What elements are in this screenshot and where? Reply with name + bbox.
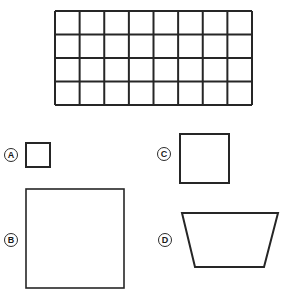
- shape-label-c-text: C: [161, 150, 168, 159]
- shape-label-c: C: [157, 147, 171, 161]
- figure-canvas: A B C D: [0, 0, 296, 293]
- shape-d-trapezoid: [182, 213, 278, 267]
- shape-label-a-text: A: [8, 151, 15, 160]
- shape-c-square: [180, 134, 229, 183]
- shape-label-a: A: [4, 148, 18, 162]
- shape-outlines: [26, 134, 278, 288]
- shape-label-b-text: B: [8, 236, 15, 245]
- shape-label-d: D: [158, 233, 172, 247]
- reference-grid: [55, 11, 252, 105]
- figure-shapes: [0, 0, 296, 293]
- shape-label-b: B: [4, 233, 18, 247]
- shape-label-d-text: D: [162, 236, 169, 245]
- shape-b-square: [26, 189, 124, 288]
- shape-a-square: [26, 143, 50, 167]
